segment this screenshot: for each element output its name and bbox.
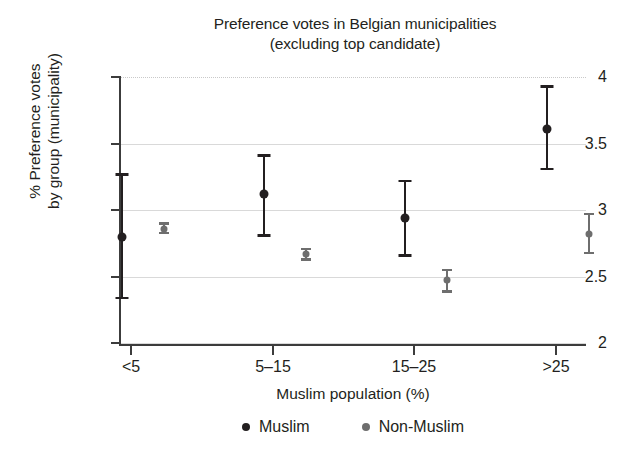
data-point-marker (303, 250, 310, 257)
legend-item-non-muslim: Non-Muslim (362, 418, 464, 436)
chart-title-line-1: Preference votes in Belgian municipaliti… (120, 14, 590, 34)
chart-figure: Preference votes in Belgian municipaliti… (0, 0, 620, 458)
y-tick-label: 2 (514, 334, 620, 352)
x-axis-label: Muslim population (%) (120, 385, 586, 403)
error-bar-cap-lower (258, 234, 271, 237)
data-point-marker (118, 232, 127, 241)
error-bar-cap-upper (584, 213, 594, 216)
error-bar-cap-upper (541, 85, 554, 88)
x-tick-label: <5 (71, 358, 191, 376)
error-bar-cap-lower (541, 168, 554, 171)
y-tick-mark (111, 209, 120, 211)
y-tick-label: 2.5 (514, 268, 620, 286)
chart-title: Preference votes in Belgian municipaliti… (120, 14, 590, 55)
data-point-marker (401, 213, 410, 222)
error-bar-cap-lower (584, 252, 594, 255)
error-bar-cap-upper (258, 154, 271, 157)
x-tick-label: 15–25 (354, 358, 474, 376)
data-point-marker (444, 277, 451, 284)
y-tick-mark (111, 342, 120, 344)
x-tick-mark (413, 346, 415, 355)
x-tick-mark (130, 346, 132, 355)
y-tick-label: 4 (514, 68, 620, 86)
x-tick-label: >25 (496, 358, 616, 376)
x-tick-mark (272, 346, 274, 355)
legend-marker-icon (362, 423, 370, 431)
legend-label: Muslim (259, 418, 310, 436)
legend-label: Non-Muslim (379, 418, 464, 436)
error-bar-cap-lower (116, 297, 129, 300)
y-axis-label-line-1: % Preference votes (25, 63, 44, 198)
legend-item-muslim: Muslim (242, 418, 310, 436)
error-bar-cap-upper (399, 180, 412, 183)
x-tick-mark (555, 346, 557, 355)
y-tick-label: 3.5 (514, 135, 620, 153)
y-tick-mark (111, 76, 120, 78)
error-bar-cap-lower (399, 254, 412, 257)
chart-title-line-2: (excluding top candidate) (120, 34, 590, 54)
data-point-marker (260, 190, 269, 199)
error-bar-cap-upper (116, 173, 129, 176)
legend-marker-icon (242, 423, 250, 431)
y-tick-label: 3 (514, 201, 620, 219)
y-axis-label-line-2: by group (municipality) (44, 53, 63, 209)
y-tick-mark (111, 276, 120, 278)
chart-legend: MuslimNon-Muslim (120, 418, 586, 436)
data-point-marker (161, 225, 168, 232)
error-bar-cap-upper (442, 269, 452, 272)
data-point-marker (543, 124, 552, 133)
error-bar-cap-lower (301, 258, 311, 261)
y-axis-label: % Preference votes by group (municipalit… (21, 0, 67, 271)
error-bar-cap-lower (442, 290, 452, 293)
data-point-marker (586, 230, 593, 237)
y-tick-mark (111, 143, 120, 145)
x-tick-label: 5–15 (213, 358, 333, 376)
